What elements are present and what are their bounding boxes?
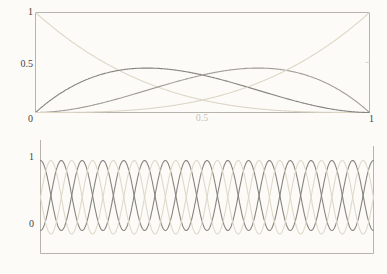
top-xtick-0p5: 0.5 [190,113,214,123]
bottom-ytick-0: 0 [20,219,34,229]
bernstein-plot [35,12,371,114]
bernstein-plot-frame [36,13,370,113]
top-ytick-1: 1 [8,7,33,17]
curve-sin-2-8-pi-x-pi-4- [41,161,374,235]
top-xtick-1: 1 [362,114,374,124]
scanned-figure: 1 0.5 0 0.5 1 1 0 [0,0,387,274]
curve-b2-3-3t-2-1-t- [36,68,370,112]
curve-b3-3-t-3 [36,13,370,113]
top-origin-tick-0: 0 [28,114,38,124]
bernstein-curves [36,13,370,113]
top-ytick-0p5: 0.5 [8,59,33,69]
bottom-ytick-1: 1 [20,152,34,162]
oscillation-plot [40,140,375,255]
curve-b0-3-1-t-3 [36,13,370,113]
oscillation-curves [41,161,374,235]
